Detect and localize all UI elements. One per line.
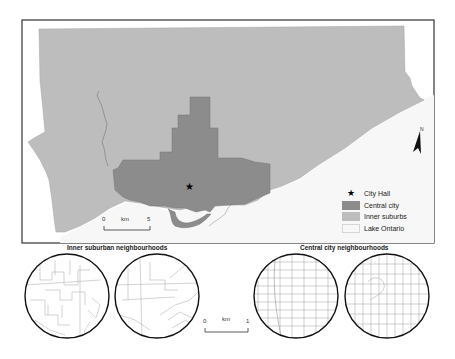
inset-circle-frame [254,254,338,338]
legend-item-lake-ontario: Lake Ontario [342,223,432,235]
inset-title-inner-suburban: Inner suburban neighbourhoods [67,244,167,251]
legend-swatch [342,212,360,221]
inset-inner-suburban-1 [25,260,100,340]
legend-label: Lake Ontario [364,225,404,232]
north-arrow-label: N [420,126,424,132]
legend-swatch [342,201,360,210]
legend-label: Central city [364,202,399,209]
legend-item-city-hall: ★ City Hall [342,188,432,200]
legend-swatch [342,224,360,233]
legend-item-central-city: Central city [342,200,432,212]
inset-scale-bar [205,328,248,332]
map-figure: ★ N [0,0,455,359]
scale-start-label: 0 [102,216,105,222]
inset-inner-suburban-2 [110,255,205,340]
inset-central-city-1 [250,250,345,340]
inset-circle-frame [25,254,109,338]
star-icon: ★ [342,189,360,198]
inset-circle-frame [115,254,199,338]
legend-item-inner-suburbs: Inner suburbs [342,211,432,223]
scale-unit-label: km [121,216,129,222]
map-legend: ★ City Hall Central city Inner suburbs L… [342,188,432,234]
city-hall-star-icon: ★ [185,181,194,192]
inset-scale-unit-label: km [222,316,230,322]
inset-scale-end-label: 1 [246,318,249,324]
scale-end-label: 5 [147,216,150,222]
legend-label: Inner suburbs [364,213,407,220]
legend-label: City Hall [364,190,390,197]
inset-scale-start-label: 0 [203,318,206,324]
inset-title-central-city: Central city neighbourhoods [300,244,388,251]
